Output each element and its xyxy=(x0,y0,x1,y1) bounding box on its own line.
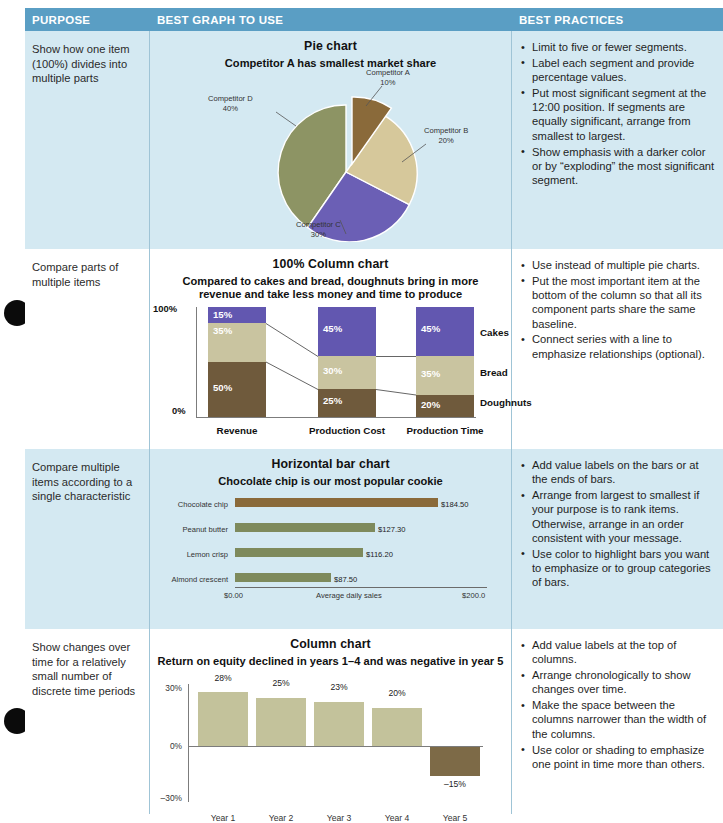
purpose-cell: Show changes over time for a relatively … xyxy=(25,629,150,814)
x-category-production-time: Production Time xyxy=(400,425,490,436)
column-plot-area: 30% 0% –30% 28% Year 1 25% Year 2 23% xyxy=(150,674,511,804)
pie-label-competitor-d: Competitor D 40% xyxy=(208,94,253,113)
pie-svg xyxy=(150,70,512,242)
column-value-year-3: 23% xyxy=(314,682,364,692)
practices-list: Limit to five or fewer segments. Label e… xyxy=(521,40,717,187)
column-bar-year-3 xyxy=(314,702,364,746)
hbar-x-axis-line xyxy=(235,587,487,588)
column-category-year-3: Year 3 xyxy=(314,813,364,823)
chart-title: Horizontal bar chart xyxy=(150,449,511,471)
column-category-year-4: Year 4 xyxy=(372,813,422,823)
y-axis-label-bottom: –30% xyxy=(150,793,182,803)
purpose-cell: Show how one item (100%) divides into mu… xyxy=(25,31,150,249)
hbar-value-lemon-crisp: $116.20 xyxy=(366,550,393,559)
leader-line-d xyxy=(276,112,296,126)
column-bar-year-5 xyxy=(430,747,480,776)
list-item: Add value labels at the top of columns. xyxy=(521,638,717,667)
chart-title: 100% Column chart xyxy=(150,249,511,271)
y-axis-label-top: 30% xyxy=(150,683,182,693)
series-label-bread: Bread xyxy=(480,367,508,378)
chart-subtitle: Chocolate chip is our most popular cooki… xyxy=(150,471,511,488)
practices-list: Add value labels at the top of columns. … xyxy=(521,638,717,771)
chart-cell-column: Column chart Return on equity declined i… xyxy=(150,629,512,814)
chart-subtitle: Competitor A has smallest market share xyxy=(150,53,511,70)
column-bar-year-1 xyxy=(198,692,248,746)
table-row: Show how one item (100%) divides into mu… xyxy=(25,31,723,249)
hbar-bar-almond-crescent xyxy=(235,573,331,582)
series-connector-lines xyxy=(150,307,512,427)
pie-plot-area: Competitor A 10% Competitor B 20% Compet… xyxy=(150,70,511,242)
list-item: Arrange from largest to smallest if your… xyxy=(521,488,717,545)
hbar-axis-title: Average daily sales xyxy=(316,591,382,600)
list-item: Use color to highlight bars you want to … xyxy=(521,547,717,590)
header-purpose: PURPOSE xyxy=(25,14,150,26)
x-category-production-cost: Production Cost xyxy=(302,425,392,436)
hbar-bar-peanut-butter xyxy=(235,523,375,532)
practices-cell: Add value labels on the bars or at the e… xyxy=(512,449,723,629)
horizontal-bar-chart: Horizontal bar chart Chocolate chip is o… xyxy=(150,449,511,629)
hbar-value-peanut-butter: $127.30 xyxy=(378,525,405,534)
list-item: Put most significant segment at the 12:0… xyxy=(521,86,717,143)
hbar-category-chocolate-chip: Chocolate chip xyxy=(150,500,228,509)
column-category-year-5: Year 5 xyxy=(430,813,480,823)
column-value-year-4: 20% xyxy=(372,688,422,698)
header-best-graph: BEST GRAPH TO USE xyxy=(150,14,512,26)
column-value-year-5: –15% xyxy=(430,779,480,789)
hbar-category-almond-crescent: Almond crescent xyxy=(150,575,228,584)
y-axis-line xyxy=(188,684,189,802)
practices-cell: Use instead of multiple pie charts. Put … xyxy=(512,249,723,449)
hbar-tick-max: $200.0 xyxy=(462,591,485,600)
chart-title: Column chart xyxy=(150,629,511,651)
table-header-row: PURPOSE BEST GRAPH TO USE BEST PRACTICES xyxy=(25,8,723,31)
practices-list: Use instead of multiple pie charts. Put … xyxy=(521,258,717,361)
x-category-revenue: Revenue xyxy=(208,425,266,436)
column-category-year-2: Year 2 xyxy=(256,813,306,823)
pie-chart: Pie chart Competitor A has smallest mark… xyxy=(150,31,511,249)
hbar-plot-area: Chocolate chip $184.50 Peanut butter $12… xyxy=(150,492,511,604)
column-chart: Column chart Return on equity declined i… xyxy=(150,629,511,814)
hbar-category-peanut-butter: Peanut butter xyxy=(150,525,228,534)
list-item: Add value labels on the bars or at the e… xyxy=(521,458,717,487)
hbar-value-chocolate-chip: $184.50 xyxy=(441,500,468,509)
column-value-year-1: 28% xyxy=(198,673,248,683)
chart-subtitle: Compared to cakes and bread, doughnuts b… xyxy=(150,271,511,302)
chart-subtitle: Return on equity declined in years 1–4 a… xyxy=(150,651,511,668)
column-category-year-1: Year 1 xyxy=(198,813,248,823)
list-item: Arrange chronologically to show changes … xyxy=(521,668,717,697)
list-item: Put the most important item at the botto… xyxy=(521,274,717,331)
purpose-cell: Compare multiple items according to a si… xyxy=(25,449,150,629)
hbar-category-lemon-crisp: Lemon crisp xyxy=(150,550,228,559)
practices-list: Add value labels on the bars or at the e… xyxy=(521,458,717,590)
column-bar-year-2 xyxy=(256,698,306,746)
list-item: Label each segment and provide percentag… xyxy=(521,56,717,85)
chart-title: Pie chart xyxy=(150,31,511,53)
table-row: Compare multiple items according to a si… xyxy=(25,449,723,629)
table-row: Compare parts of multiple items 100% Col… xyxy=(25,249,723,449)
column-bar-year-4 xyxy=(372,708,422,746)
practices-cell: Limit to five or fewer segments. Label e… xyxy=(512,31,723,249)
list-item: Use instead of multiple pie charts. xyxy=(521,258,717,272)
series-label-cakes: Cakes xyxy=(480,327,509,338)
hbar-value-almond-crescent: $87.50 xyxy=(334,575,357,584)
purpose-cell: Compare parts of multiple items xyxy=(25,249,150,449)
table-row: Show changes over time for a relatively … xyxy=(25,629,723,814)
list-item: Use color or shading to emphasize one po… xyxy=(521,743,717,772)
list-item: Make the space between the columns narro… xyxy=(521,698,717,741)
chart-cell-pie: Pie chart Competitor A has smallest mark… xyxy=(150,31,512,249)
stacked-plot-area: 100% 0% 15% 35% 50% xyxy=(150,307,511,427)
chart-cell-horizontal-bar: Horizontal bar chart Chocolate chip is o… xyxy=(150,449,512,629)
graph-selection-table: PURPOSE BEST GRAPH TO USE BEST PRACTICES… xyxy=(25,8,723,814)
list-item: Connect series with a line to emphasize … xyxy=(521,332,717,361)
list-item: Limit to five or fewer segments. xyxy=(521,40,717,54)
chart-cell-stacked-column: 100% Column chart Compared to cakes and … xyxy=(150,249,512,449)
y-axis-label-zero: 0% xyxy=(150,741,182,751)
practices-cell: Add value labels at the top of columns. … xyxy=(512,629,723,814)
hbar-tick-min: $0.00 xyxy=(224,591,243,600)
list-item: Show emphasis with a darker color or by … xyxy=(521,145,717,188)
column-value-year-2: 25% xyxy=(256,678,306,688)
stacked-column-chart: 100% Column chart Compared to cakes and … xyxy=(150,249,511,449)
pie-label-competitor-b: Competitor B 20% xyxy=(424,126,468,145)
pie-label-competitor-c: Competitor C 30% xyxy=(296,220,341,239)
header-best-practices: BEST PRACTICES xyxy=(512,14,723,26)
